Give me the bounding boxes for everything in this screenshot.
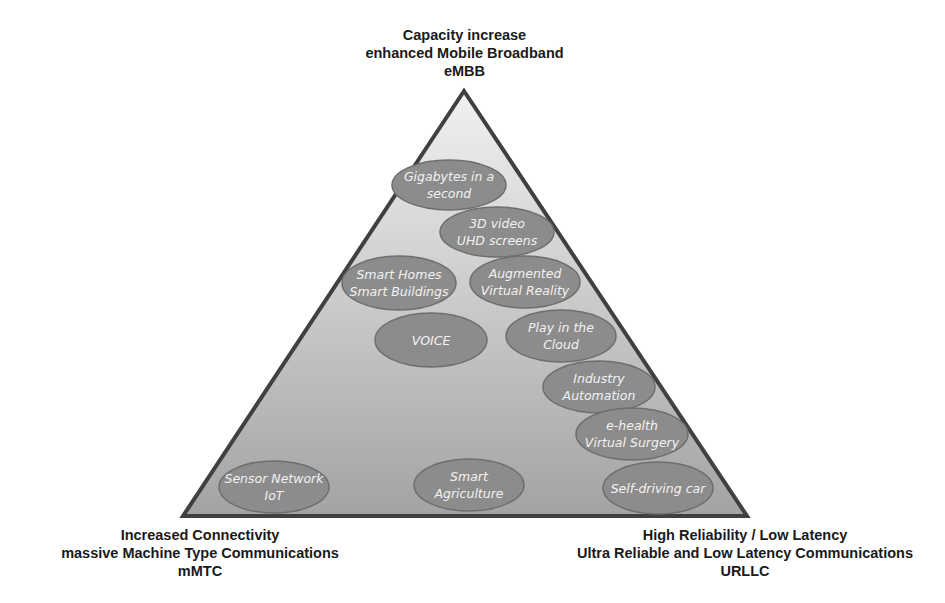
use-case-smart-homes: Smart HomesSmart Buildings — [342, 256, 456, 310]
use-case-voice: VOICE — [375, 313, 487, 367]
use-case-ellipse — [414, 459, 524, 511]
use-case-augmented-reality: AugmentedVirtual Reality — [470, 256, 580, 308]
use-case-gigabytes: Gigabytes in asecond — [392, 160, 506, 210]
use-case-ellipse — [470, 256, 580, 308]
use-case-e-health: e-healthVirtual Surgery — [576, 408, 688, 460]
use-case-ellipse — [576, 408, 688, 460]
use-case-label: Gigabytes in a — [404, 169, 494, 184]
use-case-label: Smart Homes — [356, 267, 442, 282]
use-case-label: Agriculture — [433, 486, 503, 501]
urllc-heading: High Reliability / Low Latency — [555, 526, 935, 544]
use-case-ellipse — [219, 461, 329, 513]
corner-label-mmtc: Increased Connectivity massive Machine T… — [20, 526, 380, 580]
use-case-ellipse — [392, 160, 506, 210]
use-case-label: Virtual Surgery — [585, 435, 680, 450]
use-case-sensor-network: Sensor NetworkIoT — [219, 461, 329, 513]
use-case-label: IoT — [265, 488, 285, 503]
use-case-label: second — [427, 186, 472, 201]
use-case-label: Virtual Reality — [481, 283, 570, 298]
mmtc-heading: Increased Connectivity — [20, 526, 380, 544]
corner-label-urllc: High Reliability / Low Latency Ultra Rel… — [555, 526, 935, 580]
use-case-label: Smart Buildings — [349, 284, 448, 299]
urllc-acronym: URLLC — [555, 562, 935, 580]
use-case-3d-video: 3D videoUHD screens — [440, 207, 554, 257]
usage-scenarios-diagram: Gigabytes in asecond3D videoUHD screensS… — [0, 0, 945, 603]
urllc-full-name: Ultra Reliable and Low Latency Communica… — [555, 544, 935, 562]
use-case-label: Automation — [562, 388, 636, 403]
use-case-ellipse — [543, 361, 655, 413]
embb-full-name: enhanced Mobile Broadband — [332, 44, 597, 62]
use-case-ellipse — [506, 310, 616, 362]
use-case-label: Play in the — [528, 320, 594, 335]
use-case-label: Sensor Network — [224, 471, 324, 486]
use-case-self-driving: Self-driving car — [603, 462, 713, 514]
use-case-play-cloud: Play in theCloud — [506, 310, 616, 362]
use-case-label: e-health — [606, 418, 658, 433]
use-case-label: UHD screens — [457, 233, 538, 248]
use-case-industry-automation: IndustryAutomation — [543, 361, 655, 413]
use-case-label: Self-driving car — [611, 481, 707, 496]
corner-label-embb: Capacity increase enhanced Mobile Broadb… — [332, 26, 597, 80]
embb-heading: Capacity increase — [332, 26, 597, 44]
use-case-label: VOICE — [412, 333, 451, 348]
mmtc-full-name: massive Machine Type Communications — [20, 544, 380, 562]
use-case-label: Cloud — [543, 337, 579, 352]
embb-acronym: eMBB — [332, 62, 597, 80]
mmtc-acronym: mMTC — [20, 562, 380, 580]
use-case-label: Augmented — [488, 266, 562, 281]
use-case-smart-agriculture: SmartAgriculture — [414, 459, 524, 511]
use-case-ellipse — [440, 207, 554, 257]
use-case-label: Industry — [573, 371, 625, 386]
use-case-label: Smart — [450, 469, 489, 484]
use-case-ellipse — [342, 256, 456, 310]
use-case-label: 3D video — [469, 216, 525, 231]
